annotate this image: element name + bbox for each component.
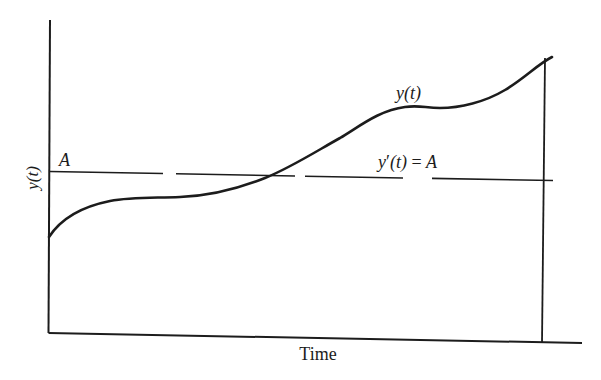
level-a-line — [50, 172, 553, 181]
curve-label: y(t) — [394, 83, 421, 104]
level-line-label-paren: (t) — [390, 152, 407, 173]
level-line-label-a: A — [425, 152, 438, 172]
level-line-label-y: y — [376, 152, 386, 172]
x-axis — [49, 333, 583, 343]
x-axis-label: Time — [299, 344, 336, 364]
level-line-label: y′(t) = A — [376, 152, 438, 173]
chart-figure: y(t) A y(t) y′(t) = A Time — [0, 0, 601, 380]
y-curve — [49, 57, 552, 237]
y-axis-label: y(t) — [23, 166, 42, 192]
level-line-label-eq: = — [407, 152, 426, 172]
level-a-label: A — [58, 150, 71, 170]
end-time-marker — [542, 58, 545, 343]
y-axis — [49, 20, 51, 333]
